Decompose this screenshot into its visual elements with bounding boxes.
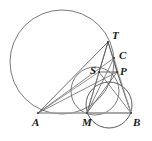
point-label-A: A — [32, 117, 39, 128]
vertex-P — [116, 71, 118, 73]
segments-layer — [38, 42, 131, 113]
vertex-S — [98, 71, 100, 73]
point-label-C: C — [119, 50, 126, 61]
vertex-C — [113, 57, 115, 59]
segment-A-C — [38, 58, 114, 113]
geometry-figure: TCSPAMB — [0, 0, 152, 141]
point-label-B: B — [133, 117, 140, 128]
large-circle — [10, 10, 114, 114]
vertex-A — [37, 112, 39, 114]
point-label-P: P — [120, 66, 127, 77]
vertex-T — [107, 41, 109, 43]
vertex-B — [130, 112, 132, 114]
point-label-M: M — [82, 117, 92, 128]
circles-layer — [10, 10, 132, 128]
geometry-canvas — [0, 0, 152, 141]
vertex-M — [86, 112, 88, 114]
point-label-T: T — [112, 30, 119, 41]
point-label-S: S — [90, 65, 96, 76]
